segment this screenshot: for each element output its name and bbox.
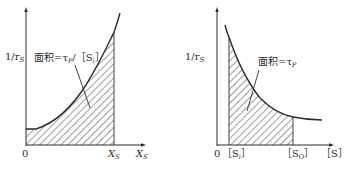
left-shaded-area — [20, 0, 120, 150]
right-so-marker-label: ［SO］ — [282, 148, 314, 161]
right-y-axis-label: 1/rS — [185, 51, 205, 64]
right-diagram: 1/rS 面积=τP 0 ［Si］ ［SO］ ［S］ — [185, 7, 347, 161]
left-diagram: 1/rS 面积=τP/［Si］ 0 XS XS — [5, 0, 148, 161]
left-x-axis-label: XS — [135, 148, 148, 161]
left-xs-marker-label: XS — [107, 148, 120, 161]
right-y-axis-arrow-icon — [215, 7, 218, 12]
left-area-label: 面积=τP/［Si］ — [34, 52, 105, 65]
left-y-axis-label: 1/rS — [5, 51, 25, 64]
right-shaded-area — [225, 30, 297, 150]
diagram-canvas: 1/rS 面积=τP/［Si］ 0 XS XS 1/rS 面积=τP 0 ［Si… — [0, 0, 347, 169]
left-origin-label: 0 — [22, 148, 28, 159]
left-x-axis-arrow-icon — [141, 143, 146, 146]
right-x-axis-label: ［S］ — [321, 148, 347, 159]
right-si-marker-label: ［Si］ — [222, 148, 251, 161]
right-x-axis-arrow-icon — [329, 143, 334, 146]
right-area-label: 面积=τP — [258, 56, 297, 69]
left-y-axis-arrow-icon — [24, 7, 27, 12]
right-origin-label: 0 — [214, 148, 220, 159]
